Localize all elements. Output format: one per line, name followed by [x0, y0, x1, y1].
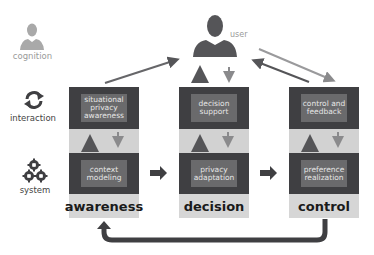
arrow-decision-to-control	[260, 166, 277, 180]
arrows-layer	[0, 0, 374, 255]
feedback-loop-arrowhead	[97, 221, 111, 229]
arrow-control-to-user	[255, 61, 309, 82]
feedback-loop-arrow	[104, 219, 325, 240]
arrow-awareness-to-user	[105, 60, 176, 83]
arrow-awareness-to-decision	[150, 166, 167, 180]
arrow-user-to-control	[259, 49, 332, 80]
